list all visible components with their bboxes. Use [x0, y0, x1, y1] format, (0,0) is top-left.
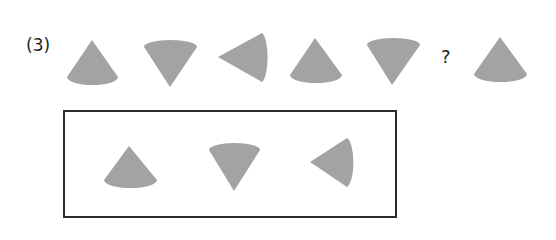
- cone-apex-left-icon: [218, 33, 268, 82]
- cone-apex-down-icon: [144, 40, 197, 87]
- cone-apex-up-icon: [67, 40, 118, 85]
- cone-apex-down-icon: [367, 38, 420, 85]
- cone-apex-up-icon: [474, 37, 527, 82]
- answer-options-box: [63, 110, 397, 218]
- sequence-row: [67, 33, 527, 87]
- cone-apex-up-icon: [290, 38, 342, 83]
- missing-item-marker: ?: [441, 48, 451, 66]
